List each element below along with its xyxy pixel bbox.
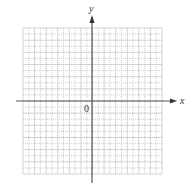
y-axis-label: y [88,3,94,14]
x-axis-label: x [179,95,185,106]
coordinate-plane: x y 0 [0,0,195,193]
origin-label: 0 [84,103,89,114]
x-axis-arrow-icon [170,99,177,104]
y-axis-arrow-icon [90,15,95,23]
